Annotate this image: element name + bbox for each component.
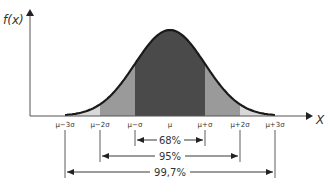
tick-labels: μ−3σμ−2σμ−σμμ+σμ+2σμ+3σ [55, 121, 285, 129]
band-68 [135, 30, 205, 116]
normal-distribution-chart: f(x) X μ−3σμ−2σμ−σμμ+σμ+2σμ+3σ 68% 95% 9… [0, 0, 330, 190]
tick-label: μ−2σ [90, 121, 110, 129]
tick-label: μ−3σ [55, 121, 75, 129]
label-68: 68% [159, 135, 181, 146]
tick-label: μ+2σ [230, 121, 250, 129]
tick-label: μ+3σ [265, 121, 285, 129]
label-997: 99,7% [154, 167, 186, 178]
x-axis-arrow-icon [306, 112, 313, 120]
tick-label: μ+σ [198, 121, 213, 129]
label-95: 95% [159, 151, 181, 162]
shaded-bands [65, 30, 275, 116]
y-axis-label: f(x) [3, 13, 24, 27]
y-axis-arrow-icon [26, 9, 34, 16]
tick-label: μ [168, 121, 173, 129]
x-axis-label: X [315, 113, 325, 127]
tick-label: μ−σ [128, 121, 143, 129]
